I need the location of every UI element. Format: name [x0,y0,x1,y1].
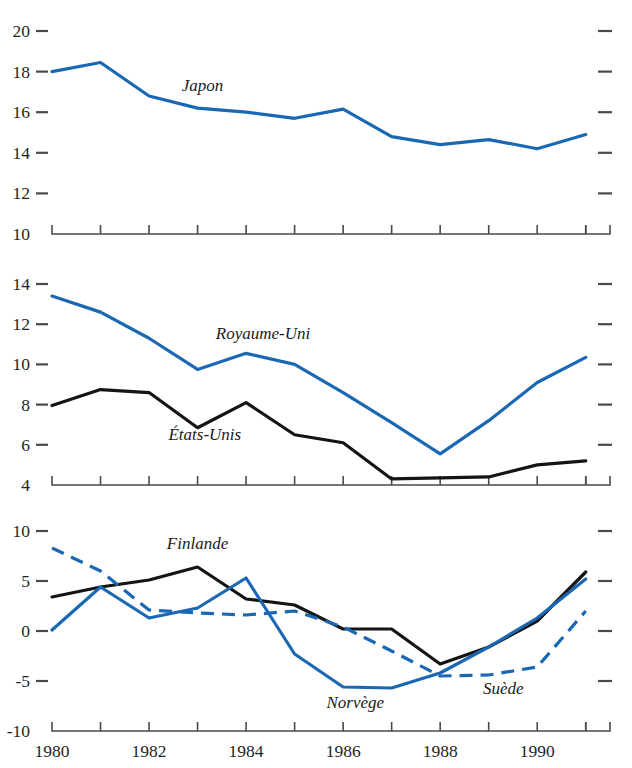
panel-top-series [52,62,586,148]
series-line-royaume-uni [52,296,586,454]
y-tick-label: 20 [13,21,31,41]
y-tick-label: 6 [21,435,30,455]
y-tick-label: -5 [15,671,30,691]
panel-top-x-axis [52,225,610,234]
panel-middle-series [52,296,586,479]
y-tick-label: 0 [21,621,30,641]
panel-middle-x-axis [52,476,610,485]
y-tick-label: 4 [21,475,30,495]
panel-middle-y-axis: 468101214 [13,274,49,495]
panel-top-series-labels: Japon [182,76,224,95]
panel-bottom-x-axis [52,722,610,731]
series-line-finlande [52,567,586,664]
y-tick-label: 10 [13,521,31,541]
y-tick-label: 5 [21,571,30,591]
panel-bottom-y-axis: -10-50510 [7,521,48,741]
series-label-royaume-uni: Royaume-Uni [215,324,311,343]
panel-bottom-series [52,548,586,688]
panel-bottom-right-ticks [598,531,612,681]
series-label-norv-ge: Norvège [325,693,384,712]
y-tick-label: 16 [13,102,31,122]
x-tick-label: 1988 [423,741,458,761]
x-tick-label: 1984 [229,741,264,761]
y-tick-label: 12 [13,183,31,203]
y-tick-label: 12 [13,314,31,334]
series-label-japon: Japon [182,76,224,95]
y-tick-label: 18 [13,62,31,82]
series-label-su-de: Suède [483,679,524,698]
y-tick-label: 14 [13,274,31,294]
panel-bottom-svg: -10-50510 FinlandeNorvègeSuède 198019821… [0,505,632,768]
x-axis-line [52,476,610,485]
x-tick-label: 1990 [520,741,555,761]
chart-panel-nordics: -10-50510 FinlandeNorvègeSuède 198019821… [0,505,632,768]
panel-top-svg: 101214161820 Japon [0,0,632,250]
panel-top-y-axis: 101214161820 [13,21,49,244]
x-tick-label: 1982 [132,741,167,761]
multi-panel-line-chart: 101214161820 Japon 468101214 Royaume-Uni… [0,0,632,768]
panel-bottom-x-tick-labels: 198019821984198619881990 [35,741,555,761]
panel-bottom-series-labels: FinlandeNorvègeSuède [166,534,524,712]
y-tick-label: 14 [13,143,31,163]
series-label-tats-unis: États-Unis [167,425,241,444]
x-tick-label: 1980 [35,741,70,761]
series-line-tats-unis [52,390,586,479]
y-tick-label: 10 [13,354,31,374]
panel-middle-series-labels: Royaume-UniÉtats-Unis [167,324,310,444]
x-axis-line [52,225,610,234]
x-axis-line [52,722,610,731]
series-label-finlande: Finlande [166,534,229,553]
y-tick-label: 10 [13,224,31,244]
chart-panel-royaume-uni-etats-unis: 468101214 Royaume-UniÉtats-Unis [0,255,632,500]
panel-top-right-ticks [598,31,612,193]
panel-middle-svg: 468101214 Royaume-UniÉtats-Unis [0,255,632,500]
y-tick-label: -10 [7,721,31,741]
series-line-su-de [52,548,586,676]
x-tick-label: 1986 [326,741,361,761]
series-line-japon [52,62,586,148]
chart-panel-japon: 101214161820 Japon [0,0,632,250]
panel-middle-right-ticks [598,284,612,445]
y-tick-label: 8 [21,395,30,415]
